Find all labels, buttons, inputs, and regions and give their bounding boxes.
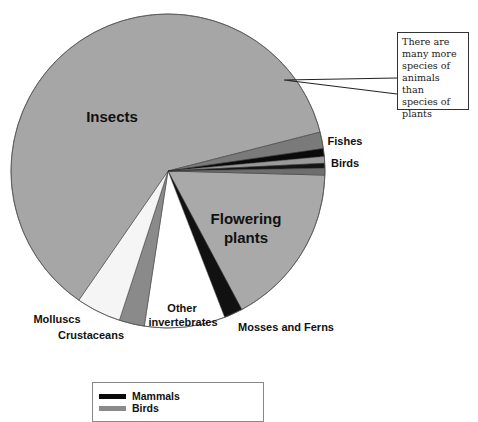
callout-line: species of [402, 60, 464, 72]
slice-label: Molluscs [33, 313, 80, 325]
callout-line: plants [402, 108, 464, 120]
slice-label: Mosses and Ferns [238, 321, 334, 333]
legend-label: Mammals [132, 390, 180, 402]
legend-swatch-birds [99, 406, 126, 411]
chart-legend: Mammals Birds [92, 382, 264, 422]
legend-swatch-mammals [99, 394, 126, 399]
legend-item-birds: Birds [99, 402, 159, 414]
slice-label: Other [167, 302, 197, 314]
legend-label: Birds [132, 402, 159, 414]
slice-label: Flowering [211, 210, 282, 227]
callout-line: animals than [402, 72, 464, 96]
slice-label: plants [224, 229, 268, 246]
slice-label: invertebrates [148, 316, 217, 328]
slice-label: Fishes [328, 135, 363, 147]
slice-label: Crustaceans [58, 329, 124, 341]
legend-item-mammals: Mammals [99, 390, 180, 402]
callout-line: species of [402, 96, 464, 108]
pie-slices [11, 14, 325, 328]
callout-line: There are [402, 36, 464, 48]
callout-line: many more [402, 48, 464, 60]
callout-annotation: There are many more species of animals t… [397, 32, 469, 110]
slice-label: Birds [331, 157, 359, 169]
slice-label: Insects [86, 108, 138, 125]
